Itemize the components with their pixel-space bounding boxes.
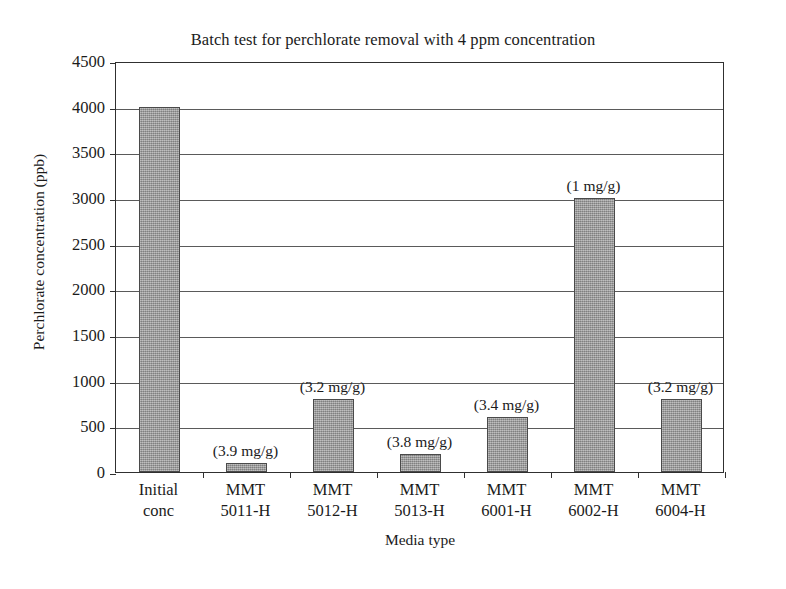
gridline [116, 109, 723, 110]
bar-value-label: (3.2 mg/g) [648, 378, 713, 396]
x-axis-title: Media type [115, 531, 725, 549]
x-axis-tick-mark [203, 472, 204, 478]
y-axis-tick-mark [110, 337, 116, 338]
y-axis-tick-mark [110, 109, 116, 110]
bar [313, 399, 353, 472]
x-axis-category-label: MMT 6002-H [568, 479, 618, 521]
x-axis-tick-mark [551, 472, 552, 478]
y-axis-tick-label: 2500 [43, 237, 105, 254]
y-axis-tick-mark [110, 383, 116, 384]
x-axis-tick-mark [464, 472, 465, 478]
y-axis-tick-label: 3000 [43, 191, 105, 208]
y-axis-tick-label: 1500 [43, 328, 105, 345]
bar-value-label: (3.8 mg/g) [387, 433, 452, 451]
y-axis-tick-mark [110, 246, 116, 247]
y-axis-tick-mark [110, 154, 116, 155]
x-axis-category-label: MMT 6001-H [481, 479, 531, 521]
bar [661, 399, 701, 472]
y-axis-tick-label: 3500 [43, 145, 105, 162]
bar [574, 198, 614, 472]
chart-title: Batch test for perchlorate removal with … [0, 30, 786, 50]
bar-value-label: (3.9 mg/g) [213, 442, 278, 460]
gridline [116, 200, 723, 201]
bar-value-label: (1 mg/g) [567, 177, 621, 195]
gridline [116, 154, 723, 155]
bar-value-label: (3.2 mg/g) [300, 378, 365, 396]
x-axis-tick-mark [725, 472, 726, 478]
gridline [116, 291, 723, 292]
y-axis-tick-mark [110, 474, 116, 475]
gridline [116, 337, 723, 338]
gridline [116, 428, 723, 429]
x-axis-category-label: MMT 5013-H [394, 479, 444, 521]
gridline [116, 246, 723, 247]
y-axis-tick-mark [110, 63, 116, 64]
x-axis-category-label: MMT 5012-H [307, 479, 357, 521]
bar [487, 417, 527, 472]
x-axis-tick-mark [290, 472, 291, 478]
bar [226, 463, 266, 472]
y-axis-tick-label: 0 [43, 465, 105, 482]
chart-figure: Batch test for perchlorate removal with … [0, 0, 786, 589]
x-axis-tick-mark [638, 472, 639, 478]
plot-area [115, 62, 724, 473]
x-axis-category-label: Initial conc [139, 479, 178, 521]
bar [400, 454, 440, 472]
gridline [116, 383, 723, 384]
x-axis-tick-mark [377, 472, 378, 478]
x-axis-category-label: MMT 6004-H [655, 479, 705, 521]
y-axis-tick-label: 4500 [43, 54, 105, 71]
x-axis-category-label: MMT 5011-H [221, 479, 271, 521]
bar-value-label: (3.4 mg/g) [474, 396, 539, 414]
y-axis-tick-mark [110, 291, 116, 292]
y-axis-tick-label: 4000 [43, 100, 105, 117]
y-axis-tick-label: 2000 [43, 282, 105, 299]
y-axis-tick-mark [110, 200, 116, 201]
y-axis-tick-label: 500 [43, 419, 105, 436]
bar [139, 107, 179, 472]
y-axis-tick-mark [110, 428, 116, 429]
y-axis-tick-label: 1000 [43, 374, 105, 391]
